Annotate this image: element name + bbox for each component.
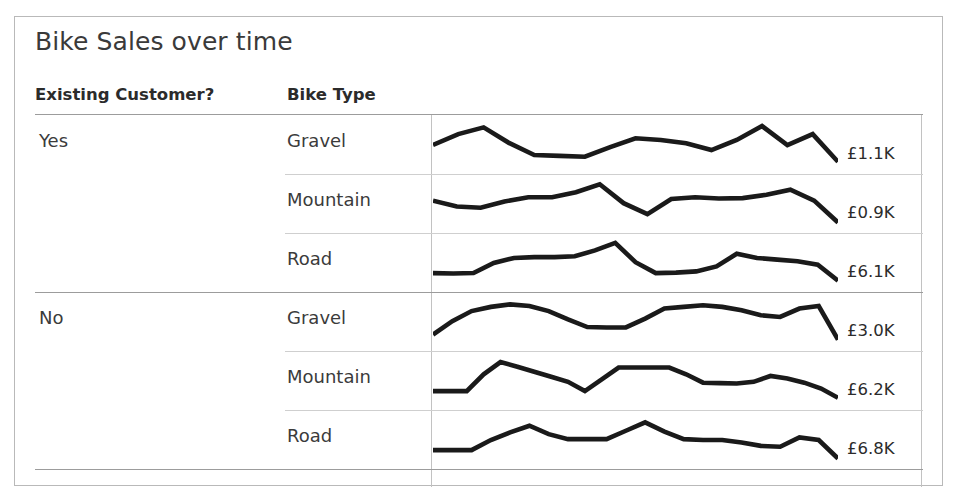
sparkline-path [433,304,838,339]
table-row[interactable]: Road£6.8K [35,410,923,469]
cell-bike-type: Mountain [287,366,371,387]
table-bottom-divider [35,469,923,470]
sparkline-end-value-label: £6.2K [847,380,895,399]
sparkline-path [433,126,838,162]
sparkline-cell[interactable] [433,233,838,292]
sparkline-path [433,422,838,458]
sparkline-end-value-label: £0.9K [847,203,895,222]
visualization-frame: Bike Sales over time Existing Customer? … [14,16,943,486]
sparkline-path [433,362,838,398]
cell-existing-customer: No [39,307,63,328]
cell-existing-customer: Yes [39,130,68,151]
page-title: Bike Sales over time [35,27,293,56]
sparkline-end-value-label: £6.8K [847,439,895,458]
sparkline-cell[interactable] [433,292,838,351]
cell-bike-type: Road [287,425,332,446]
sparkline-path [433,243,838,281]
sparkline-svg [433,410,838,469]
cell-bike-type: Gravel [287,130,346,151]
table-row[interactable]: Mountain£0.9K [35,174,923,233]
sparkline-cell[interactable] [433,174,838,233]
sparkline-svg [433,351,838,410]
column-header-existing-customer[interactable]: Existing Customer? [35,85,214,104]
table-row[interactable]: Mountain£6.2K [35,351,923,410]
sparkline-cell[interactable] [433,351,838,410]
sparkline-end-value-label: £1.1K [847,144,895,163]
table-row[interactable]: YesGravel£1.1K [35,115,923,174]
sparkline-end-value-label: £3.0K [847,321,895,340]
cell-bike-type: Road [287,248,332,269]
cell-bike-type: Gravel [287,307,346,328]
cell-bike-type: Mountain [287,189,371,210]
sparkline-svg [433,292,838,351]
column-header-bike-type[interactable]: Bike Type [287,85,376,104]
table-row[interactable]: Road£6.1K [35,233,923,292]
table-body: YesGravel£1.1KMountain£0.9KRoad£6.1KNoGr… [35,115,923,470]
sparkline-svg [433,174,838,233]
sparkline-end-value-label: £6.1K [847,262,895,281]
table-row[interactable]: NoGravel£3.0K [35,292,923,351]
sparkline-cell[interactable] [433,410,838,469]
sparkline-svg [433,115,838,174]
sparkline-svg [433,233,838,292]
sparkline-cell[interactable] [433,115,838,174]
sparkline-path [433,184,838,222]
table-header-row: Existing Customer? Bike Type [35,85,923,113]
